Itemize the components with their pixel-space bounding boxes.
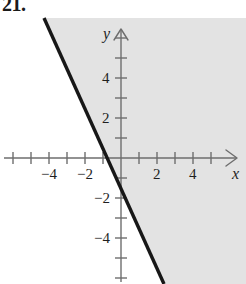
y-tick-label-pos2: 2 <box>102 111 110 126</box>
x-axis-name-label: x <box>232 166 239 182</box>
x-tick-label-neg2: −2 <box>77 167 93 182</box>
y-tick-label-neg4: −4 <box>94 231 110 246</box>
x-tick-label-neg4: −4 <box>41 167 57 182</box>
x-tick-label-pos2: 2 <box>153 167 161 182</box>
coordinate-plane <box>0 0 246 284</box>
y-tick-label-neg2: −2 <box>94 191 110 206</box>
y-tick-label-pos4: 4 <box>102 71 110 86</box>
y-axis-name-label: y <box>103 26 110 42</box>
figure-container: 21. <box>0 0 246 284</box>
x-tick-label-pos4: 4 <box>189 167 197 182</box>
